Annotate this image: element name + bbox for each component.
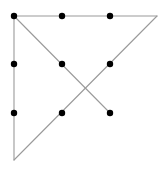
nine-dots-diagram — [0, 0, 164, 169]
dot-r2-c2 — [107, 110, 113, 116]
dot-r1-c1 — [59, 61, 65, 67]
dot-r1-c2 — [107, 61, 113, 67]
dot-r1-c0 — [11, 61, 17, 67]
dot-r2-c1 — [59, 110, 65, 116]
dot-r0-c1 — [59, 13, 65, 19]
dot-r2-c0 — [11, 110, 17, 116]
dot-r0-c0 — [11, 13, 17, 19]
dot-r0-c2 — [107, 13, 113, 19]
